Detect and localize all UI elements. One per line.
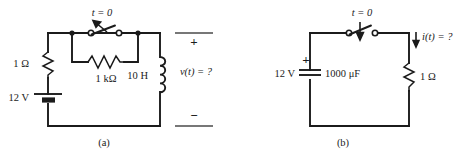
- inductor-a-10h-label: 10 H: [127, 70, 148, 81]
- terminal-a-plus-sign: +: [190, 34, 197, 49]
- circuit-figure: t = 0 1 Ω 12 V 1 kΩ 10 H v(t) = ? + − (a…: [0, 0, 463, 158]
- current-b-arrow-icon: [413, 32, 419, 47]
- output-a-voltage-label: v(t) = ?: [180, 66, 213, 78]
- wire-a-bypass-right: [124, 33, 138, 62]
- panel-b-group: t = 0 12 V + 1000 μF 1 Ω i(t) = ? (b): [274, 7, 453, 149]
- switch-b-terminal-right: [372, 30, 377, 35]
- source-a-12v: [34, 94, 62, 100]
- source-b-12v-label: 12 V: [274, 68, 295, 79]
- wire-a-bypass-left: [72, 33, 88, 62]
- current-b-arrow-head: [413, 41, 419, 48]
- resistor-b-1ohm-zigzag: [404, 63, 414, 91]
- terminal-a-minus-sign: −: [190, 108, 197, 123]
- resistor-b-1ohm-label: 1 Ω: [420, 71, 436, 82]
- capacitor-b-plus-sign: +: [302, 52, 309, 67]
- switch-a-label: t = 0: [92, 7, 113, 18]
- panel-a-caption: (a): [98, 137, 110, 149]
- panel-b-caption: (b): [337, 137, 350, 149]
- output-b-current-label: i(t) = ?: [422, 31, 453, 43]
- wire-b-bottom: [310, 80, 409, 126]
- panel-a-group: t = 0 1 Ω 12 V 1 kΩ 10 H v(t) = ? + − (a…: [8, 7, 213, 149]
- switch-b[interactable]: [346, 22, 377, 40]
- inductor-a-10h: [160, 57, 165, 92]
- source-b-capacitor: [299, 70, 321, 75]
- wire-a-bottom: [48, 104, 160, 126]
- resistor-a-1ohm-label: 1 Ω: [13, 58, 29, 69]
- capacitor-b-label: 1000 μF: [325, 68, 360, 79]
- circuit-diagram-svg: t = 0 1 Ω 12 V 1 kΩ 10 H v(t) = ? + − (a…: [0, 0, 463, 158]
- source-a-12v-label: 12 V: [8, 92, 29, 103]
- switch-a-terminal-right: [116, 30, 121, 35]
- resistor-b-1ohm: [404, 63, 414, 91]
- switch-b-arrow-head: [357, 33, 364, 41]
- resistor-a-1ohm-zigzag: [43, 52, 53, 78]
- resistor-a-1kohm: [88, 56, 124, 68]
- inductor-a-coils: [160, 57, 165, 92]
- resistor-a-1kohm-label: 1 kΩ: [96, 73, 117, 84]
- switch-b-label: t = 0: [352, 7, 373, 18]
- resistor-a-1ohm: [43, 52, 53, 78]
- resistor-a-1kohm-zigzag: [88, 56, 124, 68]
